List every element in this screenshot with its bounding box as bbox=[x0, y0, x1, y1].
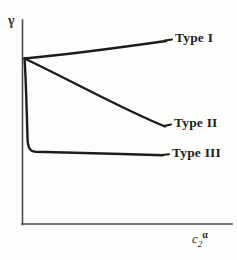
curve-type-1 bbox=[25, 41, 167, 59]
x-axis-label-subscript: 2 bbox=[198, 239, 203, 249]
curve-label-type-3: Type III bbox=[172, 146, 221, 160]
curve-type-2 bbox=[25, 59, 166, 127]
leader-dash-type-3 bbox=[162, 154, 169, 155]
leader-dash-type-2 bbox=[164, 125, 171, 127]
curve-type-3 bbox=[25, 59, 163, 156]
y-axis-label: γ bbox=[8, 14, 15, 28]
x-axis-label-superscript: α bbox=[202, 229, 208, 240]
leader-dash-type-1 bbox=[165, 40, 172, 41]
x-axis-label: c2α bbox=[192, 230, 208, 249]
curve-label-type-1: Type I bbox=[175, 31, 213, 45]
curve-label-type-2: Type II bbox=[174, 116, 218, 130]
